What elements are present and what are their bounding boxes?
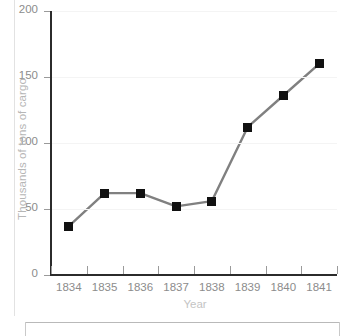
chart-page: 050100150200 183418351836183718381839184…	[0, 0, 350, 336]
data-point-marker	[136, 189, 145, 198]
y-axis-title: Thousands of tons of cargo	[16, 39, 28, 259]
x-axis-line	[50, 274, 337, 276]
data-series-line	[0, 0, 350, 316]
gridline	[52, 209, 337, 210]
data-point-marker	[172, 202, 181, 211]
y-axis-tick	[44, 11, 50, 12]
x-axis-tick	[123, 266, 124, 274]
x-axis-tick	[230, 266, 231, 274]
data-point-marker	[243, 123, 252, 132]
footer-box-left-edge	[25, 322, 26, 336]
data-point-marker	[64, 222, 73, 231]
line-chart: 050100150200 183418351836183718381839184…	[0, 0, 350, 316]
gridline	[52, 143, 337, 144]
x-axis-tick	[301, 266, 302, 274]
data-point-marker	[315, 59, 324, 68]
x-axis-tick-label: 1841	[297, 281, 341, 293]
x-axis-tick	[158, 266, 159, 274]
x-axis-tick	[266, 266, 267, 274]
y-axis-tick-label: 0	[4, 267, 38, 279]
y-axis-tick	[44, 209, 50, 210]
gridline	[52, 11, 337, 12]
data-point-marker	[207, 197, 216, 206]
gridline	[52, 77, 337, 78]
x-axis-tick	[51, 266, 52, 274]
data-point-marker	[279, 91, 288, 100]
x-axis-title: Year	[50, 298, 340, 310]
x-axis-tick	[87, 266, 88, 274]
y-axis-tick	[44, 143, 50, 144]
x-axis-tick	[337, 266, 338, 274]
x-axis-tick	[194, 266, 195, 274]
y-axis-tick	[44, 275, 50, 276]
footer-box-right-edge	[339, 322, 340, 336]
y-axis-tick-label: 200	[4, 3, 38, 15]
y-axis-tick	[44, 77, 50, 78]
data-point-marker	[100, 189, 109, 198]
footer-divider	[25, 322, 340, 323]
